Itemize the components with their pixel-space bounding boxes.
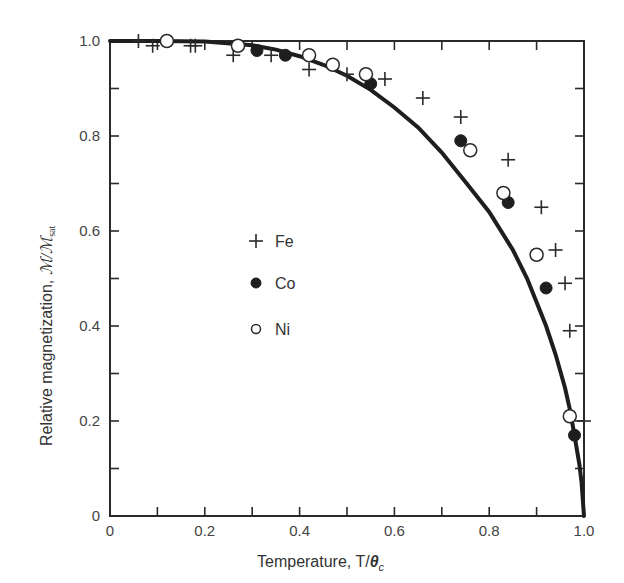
x-axis-ticks: [110, 41, 584, 516]
legend-label-fe: Fe: [275, 233, 294, 250]
series-co: [251, 45, 581, 442]
series-fe: [131, 34, 591, 428]
filled-circle-marker-icon: [569, 429, 581, 441]
plot-frame: [110, 41, 584, 516]
magnetization-chart: 00.20.40.60.81.0 00.20.40.60.81.0 Fe Co …: [0, 0, 624, 583]
plus-marker-icon: [563, 324, 577, 338]
series-ni: [160, 35, 576, 423]
x-tick-label: 0.4: [289, 522, 310, 539]
x-tick-label: 0.6: [384, 522, 405, 539]
open-circle-marker-icon: [231, 39, 244, 52]
plus-marker-icon: [534, 200, 548, 214]
x-axis-tick-labels: 00.20.40.60.81.0: [106, 522, 595, 539]
legend-item-fe: Fe: [249, 233, 294, 250]
plus-marker-icon: [558, 276, 572, 290]
open-circle-marker-icon: [359, 68, 372, 81]
legend-item-ni: Ni: [252, 321, 291, 338]
y-tick-label: 0.4: [79, 317, 100, 334]
open-circle-marker-icon: [530, 248, 543, 261]
y-axis-tick-labels: 00.20.40.60.81.0: [79, 32, 100, 524]
x-axis-label: Temperature, T/θc: [257, 553, 385, 573]
filled-circle-marker-icon: [279, 49, 291, 61]
plus-marker-icon: [302, 63, 316, 77]
theory-curve: [110, 41, 584, 516]
x-tick-label: 1.0: [574, 522, 595, 539]
plus-marker-icon: [416, 91, 430, 105]
legend-item-co: Co: [251, 275, 296, 292]
filled-circle-marker-icon: [251, 278, 261, 288]
y-tick-label: 0.6: [79, 222, 100, 239]
open-circle-marker-icon: [464, 144, 477, 157]
filled-circle-marker-icon: [455, 135, 467, 147]
plus-marker-icon: [549, 243, 563, 257]
open-circle-marker-icon: [497, 187, 510, 200]
x-tick-label: 0: [106, 522, 114, 539]
open-circle-marker-icon: [326, 58, 339, 71]
legend-label-ni: Ni: [275, 321, 290, 338]
open-circle-marker-icon: [563, 410, 576, 423]
plus-marker-icon: [454, 110, 468, 124]
x-tick-label: 0.8: [479, 522, 500, 539]
plus-marker-icon: [131, 34, 145, 48]
open-circle-marker-icon: [160, 35, 173, 48]
y-tick-label: 0: [92, 507, 100, 524]
legend-label-co: Co: [275, 275, 296, 292]
x-tick-label: 0.2: [194, 522, 215, 539]
data-markers: [131, 34, 591, 441]
y-tick-label: 0.8: [79, 127, 100, 144]
y-axis-label: Relative magnetization, ℳ/ℳsat: [38, 225, 57, 446]
y-tick-label: 1.0: [79, 32, 100, 49]
plus-marker-icon: [249, 234, 263, 248]
y-axis-ticks: [110, 41, 584, 516]
y-tick-label: 0.2: [79, 412, 100, 429]
open-circle-marker-icon: [252, 325, 261, 334]
plus-marker-icon: [577, 414, 591, 428]
open-circle-marker-icon: [303, 49, 316, 62]
plus-marker-icon: [501, 153, 515, 167]
filled-circle-marker-icon: [540, 282, 552, 294]
filled-circle-marker-icon: [251, 45, 263, 57]
plus-marker-icon: [378, 72, 392, 86]
legend: Fe Co Ni: [249, 233, 296, 338]
